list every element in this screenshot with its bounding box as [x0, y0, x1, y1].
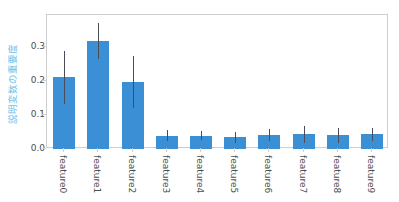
- plot-area: [46, 14, 388, 148]
- error-bar: [235, 132, 236, 143]
- x-axis-tick-mark: [371, 148, 372, 152]
- x-axis-tick-label-text: feature5: [229, 155, 239, 193]
- x-axis-tick-label-text: feature3: [161, 155, 171, 193]
- x-axis-tick-label-text: feature9: [366, 155, 376, 193]
- x-axis-tick-label: feature3: [160, 155, 172, 201]
- x-axis-tick-mark: [303, 148, 304, 152]
- x-axis-tick-mark: [337, 148, 338, 152]
- x-axis-tick-label-text: feature8: [332, 155, 342, 193]
- error-bar: [98, 23, 99, 59]
- x-axis-tick-label-text: feature2: [127, 155, 137, 193]
- x-axis-tick-label: feature1: [91, 155, 103, 201]
- error-bar: [201, 131, 202, 140]
- error-bar: [372, 128, 373, 141]
- bar-chart-figure: 説明変数の重要度 0.00.10.20.3 feature0feature1fe…: [0, 0, 399, 202]
- x-axis-tick-label-text: feature1: [92, 155, 102, 193]
- x-axis-tick-mark: [166, 148, 167, 152]
- x-axis-tick-label-text: feature7: [298, 155, 308, 193]
- x-axis-tick-mark: [132, 148, 133, 152]
- x-axis-tick-label: feature9: [365, 155, 377, 201]
- y-axis-title-text: 説明変数の重要度: [5, 44, 19, 124]
- error-bar: [269, 129, 270, 142]
- error-bar: [167, 130, 168, 142]
- x-axis-tick-label: feature8: [331, 155, 343, 201]
- error-bar: [64, 51, 65, 104]
- x-axis-tick-mark: [234, 148, 235, 152]
- x-axis-tick-mark: [63, 148, 64, 152]
- x-axis-tick-label: feature0: [57, 155, 69, 201]
- x-axis-tick-label-text: feature0: [58, 155, 68, 193]
- x-axis-tick-label: feature2: [126, 155, 138, 201]
- error-bar: [133, 56, 134, 109]
- error-bar: [304, 126, 305, 142]
- x-axis-tick-mark: [200, 148, 201, 152]
- x-axis-tick-label: feature6: [262, 155, 274, 201]
- x-axis-tick-mark: [268, 148, 269, 152]
- x-axis-tick-label: feature7: [297, 155, 309, 201]
- x-axis-tick-label-text: feature6: [263, 155, 273, 193]
- y-axis-title: 説明変数の重要度: [4, 34, 20, 134]
- x-axis-tick-mark: [97, 148, 98, 152]
- y-axis-tick-mark: [42, 148, 46, 149]
- x-axis-tick-label: feature5: [228, 155, 240, 201]
- x-axis-tick-label: feature4: [194, 155, 206, 201]
- error-bar: [338, 128, 339, 142]
- x-axis-tick-label-text: feature4: [195, 155, 205, 193]
